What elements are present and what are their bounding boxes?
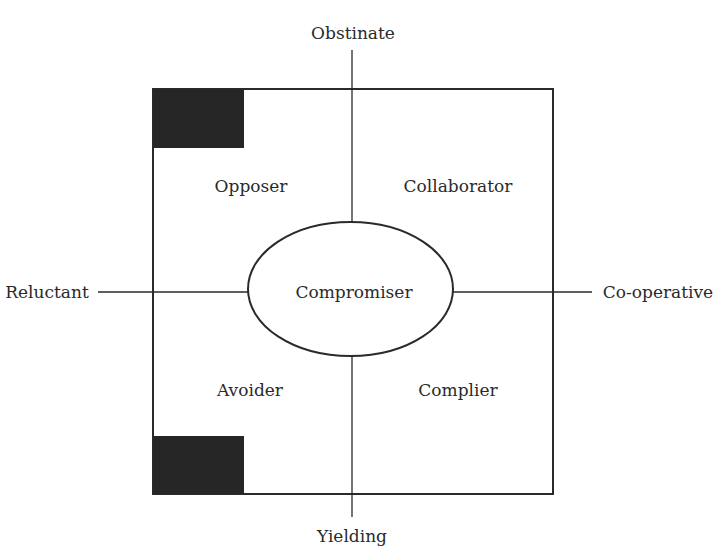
bottom-left-block	[153, 436, 244, 494]
top-left-block	[153, 89, 244, 148]
center-label-compromiser: Compromiser	[295, 282, 413, 302]
axis-label-right: Co-operative	[603, 282, 713, 302]
stakeholder-diagram: Obstinate Yielding Reluctant Co-operativ…	[0, 0, 717, 548]
axis-label-top: Obstinate	[311, 23, 395, 43]
quadrant-label-collaborator: Collaborator	[404, 176, 514, 196]
axis-label-left: Reluctant	[5, 282, 89, 302]
quadrant-label-opposer: Opposer	[215, 176, 289, 196]
quadrant-label-complier: Complier	[418, 380, 498, 400]
quadrant-label-avoider: Avoider	[216, 380, 284, 400]
axis-label-bottom: Yielding	[316, 526, 387, 546]
